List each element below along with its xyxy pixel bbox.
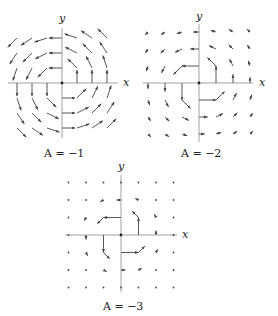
field-arrow bbox=[182, 134, 187, 136]
field-arrow bbox=[35, 38, 47, 42]
field-arrow bbox=[35, 53, 47, 59]
field-arrow bbox=[32, 98, 38, 110]
field-arrow bbox=[32, 128, 43, 135]
field-arrow bbox=[103, 56, 107, 68]
field-dot bbox=[173, 269, 175, 271]
plot-a-neg3 bbox=[65, 175, 177, 292]
field-dot bbox=[138, 287, 140, 289]
field-arrow bbox=[132, 211, 138, 217]
plot-a-neg2 bbox=[143, 24, 253, 142]
field-dot bbox=[173, 182, 175, 184]
field-dot bbox=[68, 287, 70, 289]
field-arrow bbox=[165, 134, 169, 137]
field-dot bbox=[68, 182, 70, 184]
field-arrow bbox=[86, 56, 92, 68]
field-arrow bbox=[86, 253, 88, 256]
field-dot bbox=[68, 269, 70, 271]
field-arrow bbox=[230, 59, 233, 66]
field-arrow bbox=[148, 100, 150, 105]
plot-a-neg1-caption: A = −1 bbox=[43, 147, 84, 160]
field-arrow bbox=[211, 30, 216, 32]
origin-dot bbox=[198, 82, 201, 85]
field-dot bbox=[155, 182, 157, 184]
field-arrow bbox=[47, 128, 59, 132]
field-arrow bbox=[233, 93, 236, 100]
field-arrow bbox=[247, 45, 250, 49]
field-arrow bbox=[47, 98, 56, 107]
field-arrow bbox=[174, 66, 183, 75]
field-arrow bbox=[161, 32, 165, 35]
field-arrow bbox=[47, 113, 59, 119]
field-arrow bbox=[17, 128, 26, 137]
plot-a-neg1-y-label: y bbox=[58, 12, 66, 25]
field-arrow bbox=[216, 132, 221, 134]
vector-field-figure: y x A = −1 y x A = −2 y x A = −3 bbox=[0, 0, 278, 316]
field-arrow bbox=[32, 113, 41, 122]
field-arrow bbox=[139, 268, 142, 270]
field-arrow bbox=[250, 131, 253, 134]
field-arrow bbox=[23, 53, 32, 62]
field-arrow bbox=[84, 218, 86, 221]
field-arrow bbox=[146, 66, 148, 71]
plot-a-neg2-x-label: x bbox=[259, 76, 266, 89]
field-arrow bbox=[97, 218, 103, 224]
field-arrow bbox=[8, 38, 17, 47]
field-arrow bbox=[107, 119, 116, 128]
field-arrow bbox=[165, 117, 169, 121]
field-arrow bbox=[229, 45, 233, 49]
field-arrow bbox=[161, 49, 165, 53]
field-dot bbox=[68, 234, 70, 236]
field-arrow bbox=[38, 68, 47, 77]
field-arrow bbox=[209, 46, 216, 49]
field-dot bbox=[120, 287, 122, 289]
field-dot bbox=[68, 252, 70, 254]
field-arrow bbox=[182, 100, 191, 109]
field-arrow bbox=[92, 86, 98, 98]
field-arrow bbox=[145, 32, 148, 35]
field-dot bbox=[155, 287, 157, 289]
field-arrow bbox=[177, 32, 182, 34]
plot-a-neg2-y-label: y bbox=[195, 10, 203, 23]
field-dot bbox=[68, 199, 70, 201]
field-arrow bbox=[182, 117, 189, 120]
field-arrow bbox=[77, 107, 89, 113]
field-arrow bbox=[92, 121, 103, 128]
field-arrow bbox=[104, 253, 110, 259]
field-arrow bbox=[107, 86, 111, 98]
field-arrow bbox=[229, 29, 233, 32]
field-dot bbox=[173, 234, 175, 236]
field-dot bbox=[103, 182, 105, 184]
field-dot bbox=[173, 199, 175, 201]
plot-a-neg1 bbox=[8, 28, 118, 138]
plot-a-neg2-caption: A = −2 bbox=[180, 147, 221, 160]
field-arrow bbox=[83, 44, 92, 53]
field-arrow bbox=[107, 102, 114, 113]
field-arrow bbox=[104, 270, 107, 272]
field-dot bbox=[155, 269, 157, 271]
origin-dot bbox=[61, 82, 64, 85]
field-arrow bbox=[156, 249, 158, 252]
field-arrow bbox=[148, 117, 151, 121]
field-arrow bbox=[92, 104, 101, 113]
field-arrow bbox=[81, 31, 92, 38]
field-dot bbox=[85, 269, 87, 271]
field-arrow bbox=[248, 61, 250, 66]
field-dot bbox=[155, 199, 157, 201]
field-arrow bbox=[145, 49, 148, 53]
field-arrow bbox=[65, 34, 77, 38]
field-arrow bbox=[250, 113, 253, 117]
field-arrow bbox=[148, 134, 151, 137]
field-arrow bbox=[216, 114, 223, 117]
field-arrow bbox=[247, 29, 250, 32]
field-arrow bbox=[162, 66, 165, 73]
plot-a-neg1-x-label: x bbox=[123, 76, 130, 89]
plot-a-neg3-x-label: x bbox=[182, 228, 189, 241]
field-dot bbox=[120, 182, 122, 184]
field-arrow bbox=[165, 100, 168, 107]
field-dot bbox=[173, 252, 175, 254]
field-arrow bbox=[250, 95, 252, 100]
field-arrow bbox=[216, 92, 225, 101]
field-arrow bbox=[208, 58, 217, 67]
field-arrow bbox=[17, 98, 21, 110]
plot-a-neg3-caption: A = −3 bbox=[102, 300, 143, 313]
